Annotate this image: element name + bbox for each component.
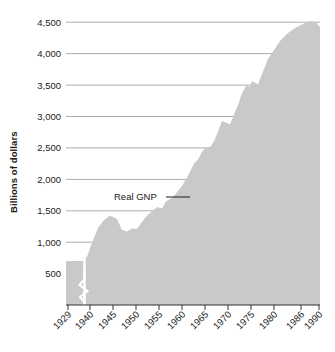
ytick-label-500: 500 [45,268,61,279]
ytick-label-1000: 1,000 [37,237,61,248]
ytick-label-2000: 2,000 [37,174,61,185]
ytick-label-4500: 4,500 [37,17,61,28]
ytick-label-3500: 3,500 [37,80,61,91]
xtick-label-1990: 1990 [302,309,325,332]
chart-svg: 4,500 4,000 3,500 3,000 2,500 2,000 1,50… [0,0,335,352]
y-axis-title: Billions of dollars [8,131,19,213]
xtick-label-1975: 1975 [234,309,257,332]
chart-figure: 4,500 4,000 3,500 3,000 2,500 2,000 1,50… [0,0,335,352]
xtick-label-1945: 1945 [96,309,119,332]
xtick-label-1965: 1965 [188,309,211,332]
x-axis-ticks [68,305,319,310]
xtick-label-1940: 1940 [73,309,96,332]
ytick-label-3000: 3,000 [37,111,61,122]
xtick-label-1986: 1986 [284,309,307,332]
ytick-label-4000: 4,000 [37,48,61,59]
y-axis-tick-labels: 4,500 4,000 3,500 3,000 2,500 2,000 1,50… [37,17,61,280]
xtick-label-1929: 1929 [51,309,74,332]
annotation-label-real-gnp: Real GNP [114,191,157,202]
xtick-label-1955: 1955 [142,309,165,332]
xtick-label-1950: 1950 [119,309,142,332]
xtick-label-1960: 1960 [165,309,188,332]
xtick-label-1970: 1970 [211,309,234,332]
x-axis-tick-labels: 1929 1940 1945 1950 1955 1960 1965 1970 … [51,309,325,332]
ytick-label-1500: 1,500 [37,205,61,216]
ytick-label-2500: 2,500 [37,142,61,153]
xtick-label-1980: 1980 [257,309,280,332]
